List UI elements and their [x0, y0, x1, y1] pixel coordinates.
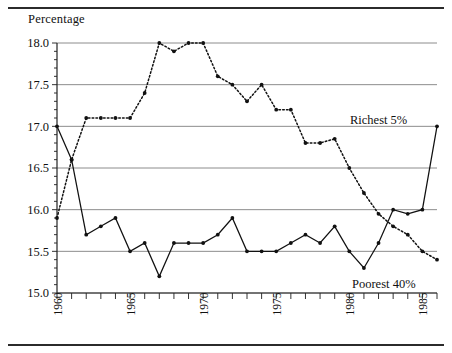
data-point-marker: [128, 249, 132, 253]
gridlines-group: [57, 43, 437, 293]
data-point-marker: [157, 274, 161, 278]
y-tick-label: 17.5: [27, 78, 49, 92]
x-tick-label: 1965: [125, 292, 137, 315]
y-tick-label: 15.5: [27, 245, 49, 259]
data-point-marker: [318, 141, 322, 145]
data-point-marker: [230, 83, 234, 87]
data-point-marker: [216, 233, 220, 237]
data-point-marker: [435, 258, 439, 262]
data-point-marker: [347, 166, 351, 170]
data-point-marker: [289, 108, 293, 112]
y-tick-label: 15.0: [27, 286, 49, 300]
data-point-marker: [274, 249, 278, 253]
x-tick-label: 1975: [271, 292, 283, 315]
data-point-marker: [333, 137, 337, 141]
data-point-marker: [391, 208, 395, 212]
data-point-marker: [391, 224, 395, 228]
data-point-marker: [128, 116, 132, 120]
y-tick-labels-group: 15.015.516.016.517.017.518.0: [27, 36, 49, 300]
data-point-marker: [201, 241, 205, 245]
data-point-marker: [187, 41, 191, 45]
x-tick-marks-group: [57, 293, 437, 299]
data-point-marker: [318, 241, 322, 245]
data-point-marker: [84, 116, 88, 120]
figure-container: Percentage 15.015.516.016.517.017.518.0 …: [0, 0, 452, 353]
line-chart-plot: 15.015.516.016.517.017.518.0 19601965197…: [0, 0, 452, 353]
data-point-marker: [260, 83, 264, 87]
data-point-marker: [216, 74, 220, 78]
x-tick-label: 1980: [344, 292, 356, 315]
x-tick-label: 1960: [52, 292, 64, 315]
y-tick-label: 18.0: [27, 36, 49, 50]
data-point-marker: [114, 216, 118, 220]
data-point-marker: [362, 191, 366, 195]
data-point-marker: [406, 233, 410, 237]
data-point-marker: [201, 41, 205, 45]
series-line-1: [57, 126, 437, 276]
data-point-marker: [347, 249, 351, 253]
data-point-marker: [362, 266, 366, 270]
data-point-marker: [377, 212, 381, 216]
data-point-marker: [230, 216, 234, 220]
series-line-2: [57, 43, 437, 260]
data-point-marker: [304, 233, 308, 237]
y-tick-label: 16.5: [27, 161, 49, 175]
data-point-marker: [143, 241, 147, 245]
data-point-marker: [55, 216, 59, 220]
data-point-marker: [245, 249, 249, 253]
data-point-marker: [55, 124, 59, 128]
data-point-marker: [420, 249, 424, 253]
data-point-marker: [289, 241, 293, 245]
data-point-marker: [304, 141, 308, 145]
data-point-marker: [377, 241, 381, 245]
data-point-marker: [99, 116, 103, 120]
x-tick-labels-group: 196019651970197519801985: [52, 292, 429, 315]
data-point-marker: [99, 224, 103, 228]
data-point-marker: [260, 249, 264, 253]
data-point-marker: [245, 99, 249, 103]
data-point-marker: [406, 212, 410, 216]
data-point-marker: [172, 49, 176, 53]
data-point-marker: [157, 41, 161, 45]
data-point-marker: [172, 241, 176, 245]
data-point-marker: [274, 108, 278, 112]
series-annotation-2: Poorest 40%: [352, 277, 416, 291]
series-markers-group: [55, 41, 439, 278]
y-tick-label: 16.0: [27, 203, 49, 217]
data-point-marker: [333, 224, 337, 228]
series-lines-group: [57, 43, 437, 276]
data-point-marker: [70, 158, 74, 162]
data-point-marker: [435, 124, 439, 128]
y-tick-marks-group: [52, 43, 57, 293]
data-point-marker: [114, 116, 118, 120]
x-tick-label: 1985: [417, 292, 429, 315]
y-tick-label: 17.0: [27, 120, 49, 134]
data-point-marker: [84, 233, 88, 237]
data-point-marker: [187, 241, 191, 245]
data-point-marker: [420, 208, 424, 212]
series-annotation-1: Richest 5%: [350, 113, 407, 127]
series-annotations-group: Richest 5%Poorest 40%: [350, 113, 416, 291]
x-tick-label: 1970: [198, 292, 210, 315]
data-point-marker: [143, 91, 147, 95]
